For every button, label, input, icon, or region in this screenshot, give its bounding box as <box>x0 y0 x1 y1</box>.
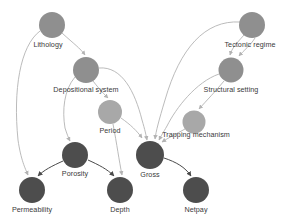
node-label-tectonic_regime: Tectonic regime <box>224 40 275 49</box>
node-label-period: Period <box>99 126 120 135</box>
node-label-permeability: Permeability <box>12 205 52 214</box>
node-permeability[interactable] <box>19 177 45 203</box>
edge-period-gross <box>121 118 142 138</box>
node-gross[interactable] <box>136 141 164 169</box>
graph-canvas: LithologyTectonic regimeDepositional sys… <box>0 0 292 224</box>
edge-porosity-permeability <box>38 161 63 176</box>
node-depth[interactable] <box>107 177 133 203</box>
node-tectonic_regime[interactable] <box>239 12 265 38</box>
node-porosity[interactable] <box>62 142 88 168</box>
node-label-gross: Gross <box>140 170 159 179</box>
node-label-trapping_mechanism: Trapping mechanism <box>162 130 230 139</box>
edge-lithology-permeability <box>16 31 40 175</box>
node-structural_setting[interactable] <box>219 58 244 83</box>
node-label-porosity: Porosity <box>62 169 88 178</box>
node-label-netpay: Netpay <box>184 205 207 214</box>
node-label-lithology: Lithology <box>33 40 62 49</box>
edge-porosity-depth <box>88 160 114 176</box>
node-netpay[interactable] <box>183 177 209 203</box>
node-depositional_system[interactable] <box>73 57 99 83</box>
node-lithology[interactable] <box>39 12 65 38</box>
edge-lithology-depositional-system <box>62 33 85 55</box>
node-label-depositional_system: Depositional system <box>53 85 118 94</box>
edge-gross-netpay <box>164 158 191 176</box>
node-label-structural_setting: Structural setting <box>204 85 259 94</box>
node-period[interactable] <box>98 100 122 124</box>
node-label-depth: Depth <box>110 205 129 214</box>
graph-svg <box>0 0 292 224</box>
